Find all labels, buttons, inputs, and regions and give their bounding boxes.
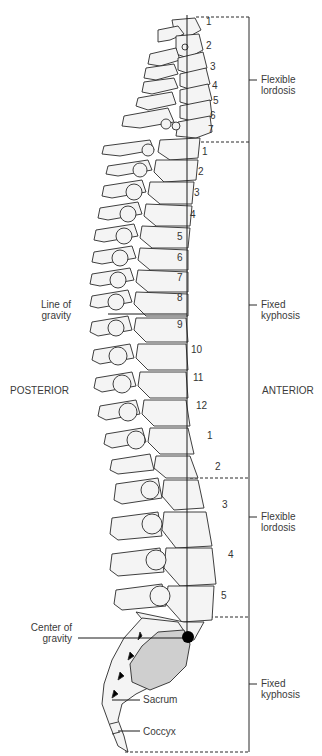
lumbar-curve-label: Flexible lordosis xyxy=(261,511,295,533)
callout-line1: Center of xyxy=(10,622,72,633)
anterior-label: ANTERIOR xyxy=(262,385,314,396)
thoracic-label-11: 11 xyxy=(193,373,203,383)
thoracic-label-2: 2 xyxy=(198,167,204,177)
lumbar-label-1: 1 xyxy=(207,431,213,441)
center-of-gravity-dot xyxy=(182,631,194,643)
curve-label-line2: lordosis xyxy=(261,522,295,533)
curve-label-line2: kyphosis xyxy=(261,310,300,321)
line-of-gravity-label: Line of gravity xyxy=(20,299,71,321)
thoracic-label-12: 12 xyxy=(196,401,207,411)
thoracic-label-3: 3 xyxy=(194,188,200,198)
thoracic-label-6: 6 xyxy=(177,253,183,263)
center-of-gravity-label: Center of gravity xyxy=(10,622,72,644)
lumbar-label-2: 2 xyxy=(215,462,221,472)
cervical-label-6: 6 xyxy=(210,111,216,121)
thoracic-label-4: 4 xyxy=(190,210,196,220)
lumbar-label-5: 5 xyxy=(221,591,227,601)
thoracic-label-9: 9 xyxy=(177,320,183,330)
thoracic-label-1: 1 xyxy=(202,147,208,157)
curve-label-line1: Fixed xyxy=(261,678,300,689)
curve-label-line2: lordosis xyxy=(261,85,295,96)
sacral-curve-label: Fixed kyphosis xyxy=(261,678,300,700)
curve-label-line1: Fixed xyxy=(261,299,300,310)
callout-line2: gravity xyxy=(10,633,72,644)
lumbar-label-3: 3 xyxy=(222,500,228,510)
cervical-label-2: 2 xyxy=(206,41,212,51)
thoracic-label-8: 8 xyxy=(177,293,183,303)
sacrum-label: Sacrum xyxy=(143,694,177,705)
cervical-label-4: 4 xyxy=(212,81,218,91)
curve-label-line2: kyphosis xyxy=(261,689,300,700)
callout-line1: Line of xyxy=(20,299,71,310)
cervical-label-1: 1 xyxy=(206,17,212,27)
curve-label-line1: Flexible xyxy=(261,511,295,522)
cervical-label-7: 7 xyxy=(208,125,214,135)
cervical-label-3: 3 xyxy=(210,62,216,72)
thoracic-curve-label: Fixed kyphosis xyxy=(261,299,300,321)
posterior-label: POSTERIOR xyxy=(10,385,69,396)
curve-label-line1: Flexible xyxy=(261,74,295,85)
thoracic-vertebrae xyxy=(90,138,200,478)
cervical-label-5: 5 xyxy=(213,96,219,106)
lumbar-label-4: 4 xyxy=(228,550,234,560)
lumbar-vertebrae xyxy=(110,478,216,640)
thoracic-label-7: 7 xyxy=(177,273,183,283)
coccyx-label: Coccyx xyxy=(143,726,176,737)
cervical-vertebrae xyxy=(122,18,212,138)
thoracic-label-10: 10 xyxy=(191,345,202,355)
thoracic-label-5: 5 xyxy=(177,232,183,242)
callout-line2: gravity xyxy=(20,310,71,321)
cervical-curve-label: Flexible lordosis xyxy=(261,74,295,96)
